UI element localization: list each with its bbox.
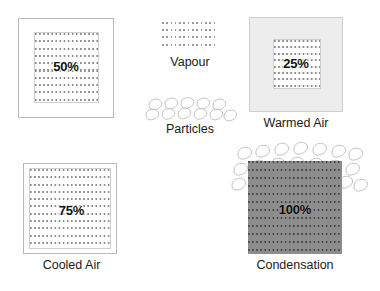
particles-legend-label: Particles (140, 122, 240, 136)
particles-swatch-icon (146, 98, 234, 122)
condensation-caption: Condensation (248, 258, 342, 272)
warmed-air-percent-label: 25% (249, 56, 343, 71)
vapour-swatch-icon (162, 22, 217, 51)
vapour-legend-label: Vapour (145, 55, 235, 69)
panel-neutral-air: 50% (18, 18, 114, 118)
cooled-air-percent-label: 75% (23, 203, 120, 218)
warmed-air-caption: Warmed Air (249, 116, 343, 130)
panel-cooled-air: 75% Cooled Air (23, 163, 120, 278)
panel-condensation: 100% Condensation (248, 148, 360, 278)
neutral-air-percent-label: 50% (18, 59, 114, 74)
diagram-canvas: 50% 25% Warmed Air 75% Cooled Air (0, 0, 380, 291)
legend-item-particles: Particles (140, 98, 240, 144)
cooled-air-caption: Cooled Air (23, 258, 120, 272)
panel-warmed-air: 25% Warmed Air (249, 17, 343, 135)
condensation-percent-label: 100% (248, 202, 342, 217)
legend-item-vapour: Vapour (145, 22, 235, 84)
